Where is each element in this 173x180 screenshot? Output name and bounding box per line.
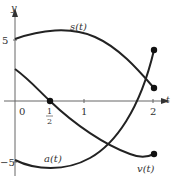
t-tick-label-2: 2	[150, 106, 156, 117]
y-axis-label: y	[10, 2, 17, 13]
t-axis-label: t	[166, 95, 170, 105]
v-curve-label: v(t)	[137, 163, 155, 174]
s-endpoint-marker	[151, 85, 157, 91]
s-curve	[15, 30, 154, 88]
v-endpoint-marker	[151, 151, 157, 157]
t-tick-label-half-num: 1	[47, 107, 52, 116]
y-tick-label-5: 5	[2, 35, 8, 46]
t-tick-label-1: 1	[81, 106, 87, 117]
v-zero-marker	[47, 98, 53, 104]
chart: y t 5 −5 0 1 2 1 2 s(t) v(t) a(t)	[0, 0, 173, 180]
y-tick-label-minus5: −5	[0, 157, 15, 168]
s-curve-label: s(t)	[70, 21, 87, 32]
t-tick-label-half-den: 2	[47, 117, 52, 126]
a-endpoint-marker	[151, 47, 157, 53]
t-tick-label-0: 0	[19, 106, 25, 117]
a-curve-label: a(t)	[44, 153, 62, 164]
